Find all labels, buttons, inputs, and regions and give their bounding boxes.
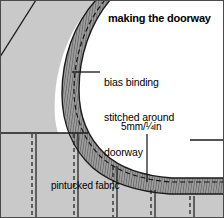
binding-width-measurement: 5mm/¼in <box>121 121 161 132</box>
diagram-title: making the doorway <box>108 12 211 24</box>
doorway-sewing-diagram: making the doorway bias binding stitched… <box>0 0 224 218</box>
bias-binding-callout-line1: bias binding <box>104 77 174 89</box>
bias-binding-callout-line3: doorway <box>104 147 174 159</box>
pintucked-fabric-label: pintucked fabric <box>51 180 119 191</box>
bias-binding-callout: bias binding stitched around doorway <box>104 53 174 182</box>
